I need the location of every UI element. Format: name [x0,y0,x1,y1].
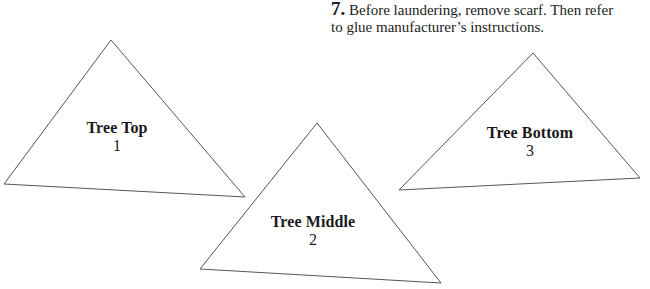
tree-bottom-label: Tree Bottom 3 [470,124,590,160]
tree-middle-triangle [200,123,441,283]
piece-name: Tree Bottom [470,124,590,142]
tree-middle-label: Tree Middle 2 [258,213,368,249]
tree-top-label: Tree Top 1 [72,119,162,155]
piece-name: Tree Top [72,119,162,137]
piece-number: 1 [72,137,162,155]
piece-name: Tree Middle [258,213,368,231]
tree-bottom-triangle [399,53,640,190]
piece-number: 2 [258,231,368,249]
piece-number: 3 [470,142,590,160]
